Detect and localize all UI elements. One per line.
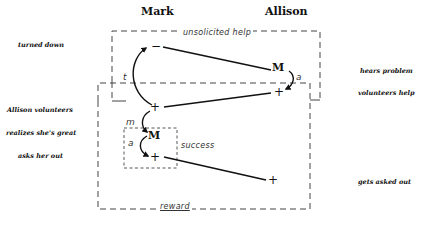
arrow-label-mark-a: a: [128, 138, 134, 148]
node-allison-plus: +: [274, 86, 284, 98]
line-minus-to-M: [163, 47, 271, 70]
node-mark-M: M: [148, 130, 160, 141]
arrow-t: [133, 48, 152, 105]
line-plus-to-bottom-plus: [164, 157, 266, 180]
arrow-allison-a: [286, 71, 293, 89]
arrow-label-t: t: [123, 72, 127, 82]
unsolicited-help-box: [112, 31, 320, 101]
arrow-mark-a: [140, 136, 148, 156]
node-mark-plus-bottom: +: [150, 151, 160, 163]
region-label-success: success: [181, 141, 214, 150]
arrow-label-m: m: [126, 117, 135, 127]
line-plus-to-plus: [164, 93, 271, 107]
node-mark-plus-top: +: [150, 101, 160, 113]
region-label-reward: reward: [158, 202, 192, 211]
node-mark-minus: −: [151, 40, 161, 52]
node-allison-plus-bottom: +: [268, 174, 278, 186]
node-allison-M: M: [272, 62, 284, 73]
region-label-unsolicited-help: unsolicited help: [181, 28, 253, 37]
arrow-label-allison-a: a: [296, 72, 302, 82]
